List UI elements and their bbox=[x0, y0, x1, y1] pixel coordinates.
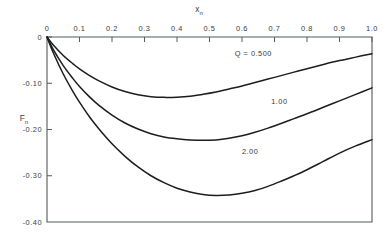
line-chart: 00.10.20.30.40.50.60.70.80.91.0 0-0.10-0… bbox=[0, 0, 390, 245]
y-tick-label: -0.10 bbox=[23, 79, 42, 88]
x-tick-label: 0.2 bbox=[106, 24, 118, 33]
curve-label-2: 2.00 bbox=[242, 147, 258, 156]
x-tick-label: 0.9 bbox=[334, 24, 346, 33]
curve-label-1: 1.00 bbox=[271, 97, 287, 106]
x-tick-label: 1.0 bbox=[366, 24, 378, 33]
x-tick-label: 0.7 bbox=[269, 24, 281, 33]
y-tick-label: -0.40 bbox=[23, 218, 42, 227]
x-tick-label: 0.4 bbox=[171, 24, 183, 33]
x-tick-label: 0 bbox=[45, 24, 50, 33]
y-tick-label: -0.30 bbox=[23, 171, 42, 180]
x-tick-label: 0.1 bbox=[74, 24, 86, 33]
chart-figure: 00.10.20.30.40.50.60.70.80.91.0 0-0.10-0… bbox=[0, 0, 390, 245]
x-tick-label: 0.3 bbox=[139, 24, 151, 33]
curve-label-0: Q = 0.500 bbox=[235, 49, 272, 58]
x-tick-label: 0.5 bbox=[204, 24, 216, 33]
x-tick-label: 0.6 bbox=[236, 24, 248, 33]
y-tick-label: 0 bbox=[37, 33, 42, 42]
y-tick-label: -0.20 bbox=[23, 125, 42, 134]
x-tick-label: 0.8 bbox=[301, 24, 313, 33]
